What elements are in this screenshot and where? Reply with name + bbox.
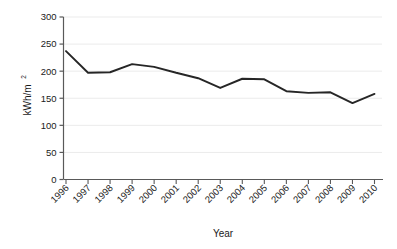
y-axis-tick-label: 150 xyxy=(41,93,57,104)
y-axis-tick-label: 50 xyxy=(46,147,57,158)
chart-background xyxy=(0,0,397,249)
y-axis-tick-label: 250 xyxy=(41,38,57,49)
chart-container: 050100150200250300 199619971998199920002… xyxy=(0,0,397,249)
y-axis-tick-label: 300 xyxy=(41,11,57,22)
y-axis-tick-label: 0 xyxy=(51,174,56,185)
line-chart: 050100150200250300 199619971998199920002… xyxy=(0,0,397,249)
y-axis-title-superscript: 2 xyxy=(20,75,27,79)
y-axis-title: kWh/m xyxy=(22,84,33,115)
x-axis-title: Year xyxy=(213,228,234,239)
y-axis-tick-label: 200 xyxy=(41,66,57,77)
y-axis-tick-label: 100 xyxy=(41,120,57,131)
